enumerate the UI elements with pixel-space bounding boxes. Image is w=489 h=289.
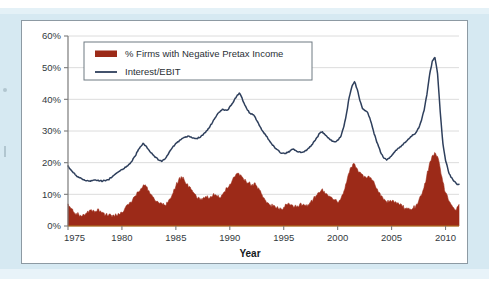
x-axis-title: Year (239, 248, 260, 259)
legend-label-negative-pretax-income: % Firms with Negative Pretax Income (125, 48, 283, 59)
y-tick-label-30: 30% (42, 125, 62, 136)
chart-legend: % Firms with Negative Pretax IncomeInter… (84, 42, 312, 80)
series-area-negative-pretax-income (68, 153, 459, 226)
legend-swatch-negative-pretax-income (95, 51, 117, 58)
x-tick-label-1995: 1995 (273, 232, 294, 243)
scan-artifact-mark-upper (3, 88, 7, 92)
x-axis-tick-labels: 19751980198519901995200020052010 (64, 226, 456, 243)
x-tick-label-1975: 1975 (64, 232, 85, 243)
y-tick-label-40: 40% (42, 94, 62, 105)
y-tick-label-60: 60% (42, 30, 62, 41)
chart-svg: 0%10%20%30%40%50%60% 1975198019851990199… (22, 21, 469, 265)
y-tick-label-20: 20% (42, 157, 62, 168)
x-tick-label-1985: 1985 (165, 232, 186, 243)
area-fill-negative-pretax-income (68, 153, 459, 226)
x-tick-label-2000: 2000 (327, 232, 348, 243)
chart-card: 0%10%20%30%40%50%60% 1975198019851990199… (21, 20, 468, 264)
y-axis-tick-labels: 0%10%20%30%40%50%60% (42, 30, 68, 231)
panel-top-highlight (0, 8, 489, 14)
y-tick-label-0: 0% (47, 220, 61, 231)
x-tick-label-2005: 2005 (381, 232, 402, 243)
x-tick-label-2010: 2010 (435, 232, 456, 243)
legend-label-interest-ebit: Interest/EBIT (125, 66, 181, 77)
y-tick-label-10: 10% (42, 189, 62, 200)
plot-area-wrapper: 0%10%20%30%40%50%60% 1975198019851990199… (22, 21, 469, 265)
figure-root: 0%10%20%30%40%50%60% 1975198019851990199… (0, 0, 489, 289)
x-tick-label-1980: 1980 (111, 232, 132, 243)
scan-artifact-mark-lower (4, 146, 6, 157)
y-tick-label-50: 50% (42, 62, 62, 73)
x-tick-label-1990: 1990 (219, 232, 240, 243)
x-axis-title-text: Year (239, 248, 260, 259)
panel-bottom-highlight (0, 269, 489, 279)
